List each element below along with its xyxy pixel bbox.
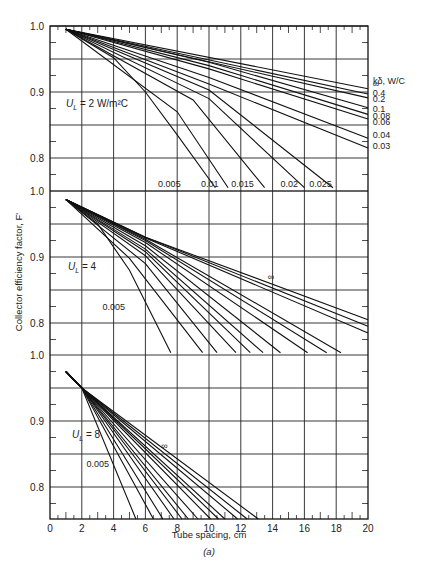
y-tick-label: 0.8 — [30, 153, 44, 164]
y-tick-label: 0.9 — [30, 87, 44, 98]
y-tick-label: 1.0 — [30, 186, 44, 197]
panel-label: UL = 8 — [72, 429, 101, 442]
x-tick-label: 14 — [267, 523, 279, 534]
curve-label: ∞ — [268, 272, 274, 282]
curve-kdelta-0.01: U_L = 4, kδ = 0.01 — [66, 200, 203, 353]
x-axis-title: Tube spacing, cm — [172, 529, 247, 540]
y-tick-label: 0.8 — [30, 482, 44, 493]
curve-label: 0.06 — [373, 117, 391, 127]
curve-label: ∞ — [161, 441, 167, 451]
x-tick-label: 6 — [143, 523, 149, 534]
panel-label: UL = 4 — [68, 261, 97, 274]
x-tick-label: 4 — [111, 523, 117, 534]
y-tick-label: 0.8 — [30, 318, 44, 329]
curve-kdelta-0.015: U_L = 8, kδ = 0.015 — [66, 372, 163, 520]
x-tick-label: 2 — [79, 523, 85, 534]
curve-label: 0.04 — [373, 130, 391, 140]
y-tick-label: 0.9 — [30, 416, 44, 427]
legend-title: kδ, W/C — [373, 76, 406, 86]
curve-kdelta-0.4: U_L = 8, kδ = 0.4 — [66, 372, 247, 520]
curve-label: 0.015 — [231, 179, 254, 189]
curve-label: 0.01 — [201, 179, 219, 189]
x-tick-label: 0 — [47, 523, 53, 534]
x-tick-label: 20 — [362, 523, 374, 534]
y-axis-title: Collector efficiency factor, F' — [13, 213, 24, 332]
curve-label: 0.2 — [373, 94, 386, 104]
curve-label: 0.005 — [102, 302, 125, 312]
curve-kdelta-0.01: U_L = 8, kδ = 0.01 — [66, 372, 153, 520]
curve-kdelta-0.2: U_L = 8, kδ = 0.2 — [66, 372, 238, 520]
x-tick-label: 18 — [331, 523, 343, 534]
curve-label: 0.02 — [281, 179, 299, 189]
y-tick-label: 1.0 — [30, 350, 44, 361]
figure-caption: (a) — [203, 546, 215, 557]
curve-label: 0.005 — [158, 179, 181, 189]
curve-label: 0.005 — [87, 459, 110, 469]
panel-label: UL = 2 W/m²C — [66, 98, 128, 111]
chart: U_L = 2 W/m²C, kδ = ∞U_L = 2 W/m²C, kδ =… — [0, 0, 427, 570]
curve-label: 0.03 — [373, 141, 391, 151]
y-tick-label: 0.9 — [30, 252, 44, 263]
curve-kdelta-0.06: U_L = 8, kδ = 0.06 — [66, 372, 211, 520]
curve-label: 0.025 — [309, 179, 332, 189]
curve-kdelta-0.4: U_L = 2 W/m²C, kδ = 0.4 — [66, 29, 368, 94]
y-tick-label: 1.0 — [30, 21, 44, 32]
x-tick-label: 16 — [299, 523, 311, 534]
curve-kdelta-0.03: U_L = 2 W/m²C, kδ = 0.03 — [66, 29, 368, 148]
